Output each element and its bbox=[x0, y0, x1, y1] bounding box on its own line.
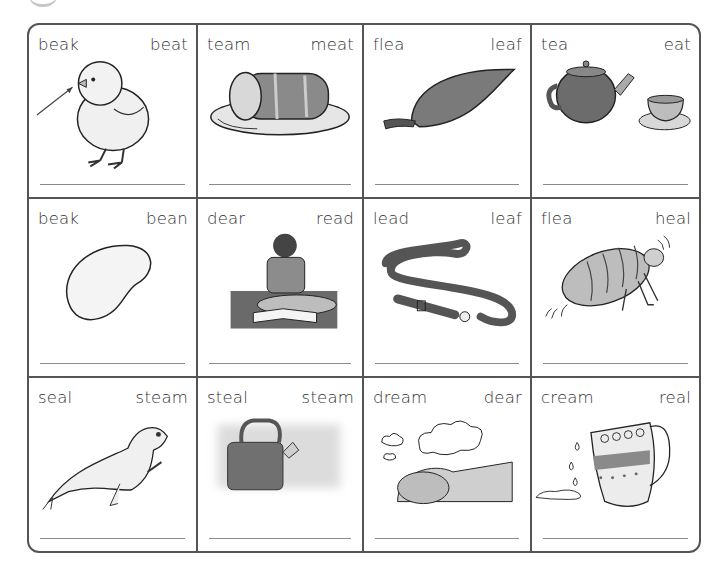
bean-icon bbox=[29, 233, 196, 345]
right-word[interactable]: real bbox=[659, 388, 691, 407]
left-word[interactable]: team bbox=[207, 35, 251, 54]
writing-line[interactable] bbox=[375, 363, 519, 364]
right-word[interactable]: beat bbox=[150, 35, 188, 54]
right-word[interactable]: read bbox=[316, 209, 354, 228]
cell-6: dear read bbox=[198, 199, 364, 378]
cell-5: beak bean bbox=[29, 199, 198, 378]
cell-1: beak beat bbox=[29, 25, 198, 199]
cell-4: tea eat bbox=[532, 25, 699, 199]
left-word[interactable]: flea bbox=[373, 35, 404, 54]
teapot-icon bbox=[532, 59, 699, 171]
writing-line[interactable] bbox=[40, 538, 185, 539]
seal-icon bbox=[29, 412, 196, 524]
right-word[interactable]: steam bbox=[302, 388, 354, 407]
writing-line[interactable] bbox=[543, 363, 688, 364]
dog-lead-icon bbox=[364, 233, 530, 345]
right-word[interactable]: bean bbox=[146, 209, 188, 228]
left-word[interactable]: lead bbox=[373, 209, 409, 228]
cell-2: team meat bbox=[198, 25, 364, 199]
chick-icon bbox=[29, 59, 196, 171]
writing-line[interactable] bbox=[375, 184, 519, 185]
cell-7: lead leaf bbox=[364, 199, 532, 378]
writing-line[interactable] bbox=[375, 538, 519, 539]
cell-3: flea leaf bbox=[364, 25, 532, 199]
left-word[interactable]: dream bbox=[373, 388, 427, 407]
writing-line[interactable] bbox=[543, 538, 688, 539]
cell-12: cream real bbox=[532, 378, 699, 551]
writing-line[interactable] bbox=[209, 363, 351, 364]
left-word[interactable]: seal bbox=[38, 388, 72, 407]
left-word[interactable]: steal bbox=[207, 388, 248, 407]
right-word[interactable]: leaf bbox=[491, 209, 522, 228]
right-word[interactable]: steam bbox=[136, 388, 188, 407]
flea-icon bbox=[532, 233, 699, 345]
sleeping-child-icon bbox=[364, 412, 530, 524]
writing-line[interactable] bbox=[40, 363, 185, 364]
right-word[interactable]: heal bbox=[655, 209, 691, 228]
cream-jug-icon bbox=[532, 412, 699, 524]
left-word[interactable]: dear bbox=[207, 209, 245, 228]
writing-line[interactable] bbox=[209, 538, 351, 539]
left-word[interactable]: cream bbox=[541, 388, 594, 407]
right-word[interactable]: eat bbox=[664, 35, 691, 54]
left-word[interactable]: tea bbox=[541, 35, 568, 54]
right-word[interactable]: dear bbox=[484, 388, 522, 407]
cell-8: flea heal bbox=[532, 199, 699, 378]
right-word[interactable]: leaf bbox=[491, 35, 522, 54]
right-word[interactable]: meat bbox=[310, 35, 354, 54]
kettle-icon bbox=[198, 412, 362, 524]
left-word[interactable]: beak bbox=[38, 35, 79, 54]
meat-icon bbox=[198, 59, 362, 171]
worksheet-grid: beak beat team meat bbox=[27, 23, 701, 553]
corner-mark bbox=[28, 0, 58, 7]
writing-line[interactable] bbox=[40, 184, 185, 185]
writing-line[interactable] bbox=[209, 184, 351, 185]
cell-10: steal steam bbox=[198, 378, 364, 551]
leaf-icon bbox=[364, 59, 530, 171]
cell-9: seal steam bbox=[29, 378, 198, 551]
writing-line[interactable] bbox=[543, 184, 688, 185]
child-reading-icon bbox=[198, 233, 362, 345]
cell-11: dream dear bbox=[364, 378, 532, 551]
left-word[interactable]: flea bbox=[541, 209, 572, 228]
left-word[interactable]: beak bbox=[38, 209, 79, 228]
